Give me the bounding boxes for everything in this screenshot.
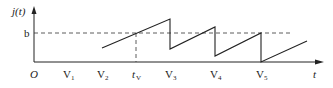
svg-text:2: 2 (105, 74, 109, 82)
y-axis-arrow-icon (32, 6, 37, 14)
svg-text:3: 3 (173, 74, 177, 82)
origin-label: O (30, 68, 38, 80)
tick-label-v4: V 4 (210, 68, 222, 82)
tick-label-v5: V 5 (256, 68, 268, 82)
svg-text:1: 1 (71, 74, 75, 82)
tick-label-v1: V 1 (63, 68, 75, 82)
x-axis-arrow-icon (315, 60, 324, 65)
sawtooth-diagram: j(t) b O t V 1 V 2 t V V 3 V 4 V 5 (0, 0, 333, 88)
tick-label-v2: V 2 (97, 68, 109, 82)
svg-text:V: V (136, 74, 141, 82)
svg-text:4: 4 (218, 74, 222, 82)
svg-text:V: V (165, 68, 173, 80)
level-b-label: b (24, 27, 30, 39)
svg-text:V: V (97, 68, 105, 80)
sawtooth-curve (102, 19, 307, 62)
tick-label-tv: t V (132, 68, 141, 82)
svg-text:V: V (256, 68, 264, 80)
tick-label-v3: V 3 (165, 68, 177, 82)
x-axis-label: t (313, 68, 317, 80)
svg-text:V: V (210, 68, 218, 80)
y-axis-label: j(t) (10, 5, 26, 18)
svg-text:V: V (63, 68, 71, 80)
svg-text:5: 5 (264, 74, 268, 82)
